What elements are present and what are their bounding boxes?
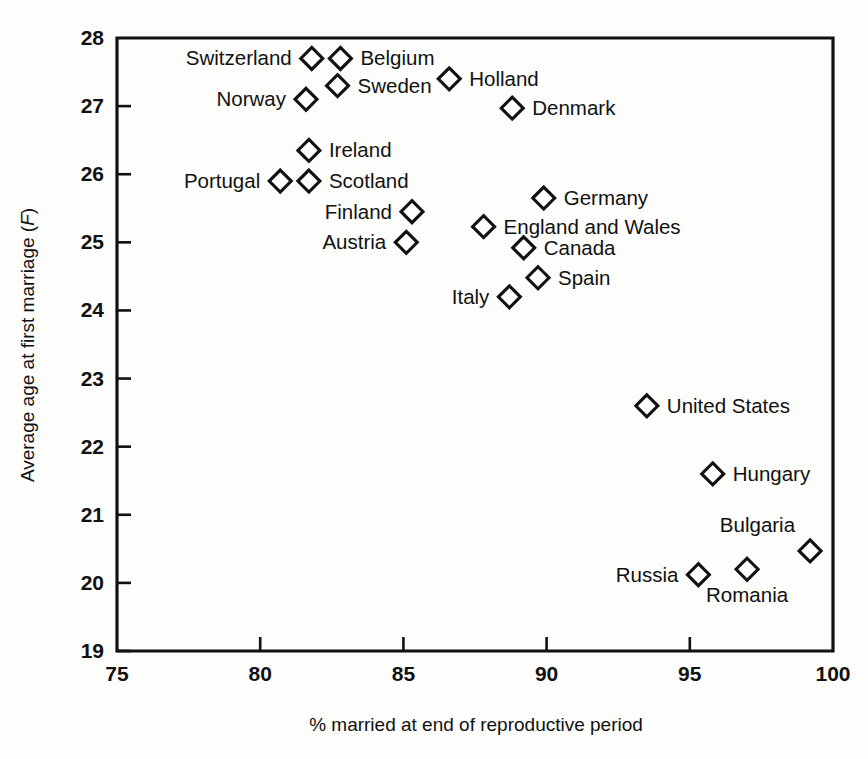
data-point: Denmark: [501, 96, 616, 119]
diamond-marker: [301, 47, 323, 69]
diamond-marker: [498, 286, 520, 308]
y-axis-title: Average age at first marriage (F): [17, 208, 38, 482]
data-point-label: Romania: [706, 583, 789, 606]
y-tick-label: 20: [81, 571, 104, 594]
y-tick-label: 19: [81, 639, 104, 662]
axis-titles: % married at end of reproductive period …: [17, 208, 643, 735]
diamond-marker: [736, 558, 758, 580]
data-point-label: Austria: [322, 230, 386, 253]
diamond-marker: [298, 139, 320, 161]
y-tick-label: 22: [81, 435, 104, 458]
data-point-label: England and Wales: [504, 215, 681, 238]
data-point: Austria: [322, 230, 417, 253]
data-point: Norway: [217, 87, 318, 110]
x-axis-ticks: 7580859095100: [105, 637, 850, 685]
diamond-marker: [501, 97, 523, 119]
y-axis-title-paren: ): [17, 208, 38, 214]
data-point: Switzerland: [186, 46, 323, 69]
data-point-label: Ireland: [329, 138, 392, 161]
diamond-marker: [269, 170, 291, 192]
data-point: Germany: [533, 186, 649, 209]
diamond-marker: [533, 187, 555, 209]
diamond-marker: [395, 231, 417, 253]
data-point-label: Holland: [469, 67, 539, 90]
data-point-label: Hungary: [733, 462, 811, 485]
data-point-label: Canada: [544, 236, 616, 259]
data-point: Sweden: [327, 74, 432, 97]
diamond-marker: [702, 463, 724, 485]
data-point-label: Spain: [558, 266, 610, 289]
x-tick-label: 95: [678, 662, 702, 685]
data-point: Russia: [616, 563, 710, 586]
x-tick-label: 100: [815, 662, 850, 685]
y-axis-ticks: 19202122232425262728: [81, 26, 131, 662]
data-point-label: Bulgaria: [720, 513, 796, 536]
x-tick-label: 80: [249, 662, 272, 685]
diamond-marker: [329, 47, 351, 69]
diamond-marker: [513, 237, 535, 259]
diamond-marker: [327, 75, 349, 97]
data-point: Portugal: [184, 169, 291, 192]
x-tick-label: 75: [105, 662, 129, 685]
diamond-marker: [527, 267, 549, 289]
diamond-marker: [438, 68, 460, 90]
y-axis-title-text: Average age at first marriage (: [17, 225, 38, 482]
x-tick-label: 85: [392, 662, 416, 685]
diamond-marker: [636, 395, 658, 417]
data-point-label: Finland: [325, 200, 392, 223]
data-point-label: Italy: [452, 285, 490, 308]
data-point-group: SwitzerlandBelgiumSwedenNorwayHollandDen…: [184, 46, 821, 606]
data-point: Romania: [706, 558, 789, 606]
data-point-label: Belgium: [360, 46, 434, 69]
y-tick-label: 21: [81, 503, 105, 526]
data-point-label: Norway: [217, 87, 287, 110]
data-point: Finland: [325, 200, 423, 223]
y-tick-label: 23: [81, 367, 104, 390]
data-point: United States: [636, 394, 790, 417]
data-point: Holland: [438, 67, 539, 90]
data-point-label: Germany: [564, 186, 649, 209]
data-point: Italy: [452, 285, 521, 308]
y-tick-label: 28: [81, 26, 105, 49]
data-point: England and Wales: [473, 215, 681, 238]
diamond-marker: [799, 540, 821, 562]
x-tick-label: 90: [535, 662, 558, 685]
data-point-label: Russia: [616, 563, 679, 586]
data-point: Spain: [527, 266, 610, 289]
axes-frame: [117, 38, 833, 651]
y-tick-label: 26: [81, 162, 104, 185]
x-axis-title: % married at end of reproductive period: [309, 714, 643, 735]
data-point-label: United States: [667, 394, 790, 417]
data-point-label: Denmark: [532, 96, 616, 119]
diamond-marker: [473, 216, 495, 238]
data-point: Hungary: [702, 462, 811, 485]
y-tick-label: 27: [81, 94, 104, 117]
diamond-marker: [298, 170, 320, 192]
y-tick-label: 24: [81, 298, 105, 321]
plot-canvas: 7580859095100 19202122232425262728 Switz…: [0, 0, 868, 759]
y-tick-label: 25: [81, 230, 105, 253]
diamond-marker: [401, 201, 423, 223]
data-point: Bulgaria: [720, 513, 821, 562]
scatter-plot-figure: 7580859095100 19202122232425262728 Switz…: [0, 0, 868, 759]
data-point-label: Switzerland: [186, 46, 292, 69]
data-point-label: Sweden: [358, 74, 432, 97]
data-point: Scotland: [298, 169, 409, 192]
data-point: Belgium: [329, 46, 434, 69]
axes-rectangle: [117, 38, 833, 651]
data-point-label: Scotland: [329, 169, 409, 192]
data-point-label: Portugal: [184, 169, 260, 192]
diamond-marker: [295, 88, 317, 110]
data-point: Canada: [513, 236, 616, 259]
data-point: Ireland: [298, 138, 392, 161]
